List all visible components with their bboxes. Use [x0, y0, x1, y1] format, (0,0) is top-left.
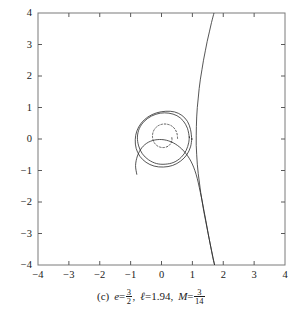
caption-e-equals: = — [119, 290, 125, 302]
caption-e-numerator: 3 — [126, 288, 132, 297]
caption-M-equals: = — [187, 290, 193, 302]
caption-e-denominator: 2 — [126, 296, 132, 306]
plot-frame — [38, 13, 285, 265]
x-tick-label: 0 — [148, 270, 176, 281]
y-tick-label: −3 — [6, 229, 32, 240]
y-tick-label: −1 — [6, 166, 32, 177]
x-tick-label: −3 — [55, 270, 83, 281]
caption-M-numerator: 3 — [194, 288, 205, 297]
x-tick-label: −1 — [117, 270, 145, 281]
caption-comma-1: , — [133, 290, 136, 302]
caption-e-fraction: 32 — [126, 288, 132, 307]
x-tick-label: −4 — [24, 270, 52, 281]
y-tick-label: 1 — [6, 103, 32, 114]
x-tick-label: 4 — [271, 270, 299, 281]
y-tick-label: −2 — [6, 197, 32, 208]
caption-M-symbol: M — [178, 290, 187, 302]
caption-M-denominator: 14 — [194, 296, 205, 306]
x-tick-label: 3 — [240, 270, 268, 281]
y-tick-label: −4 — [6, 260, 32, 271]
y-tick-label: 0 — [6, 134, 32, 145]
caption-index: (c) — [97, 290, 109, 302]
x-tick-label: −2 — [86, 270, 114, 281]
x-tick-label: 2 — [209, 270, 237, 281]
caption-M-fraction: 314 — [194, 288, 205, 307]
caption-comma-2: , — [170, 290, 173, 302]
figure-caption: (c)e=32,ℓ=1.94,M=314 — [0, 288, 302, 307]
y-tick-label: 3 — [6, 40, 32, 51]
x-tick-label: 1 — [178, 270, 206, 281]
figure-panel: −4−3−2−101234 −4−3−2−101234 (c)e=32,ℓ=1.… — [0, 0, 302, 328]
y-tick-label: 4 — [6, 8, 32, 19]
caption-l-value: 1.94 — [151, 290, 170, 302]
y-tick-label: 2 — [6, 71, 32, 82]
